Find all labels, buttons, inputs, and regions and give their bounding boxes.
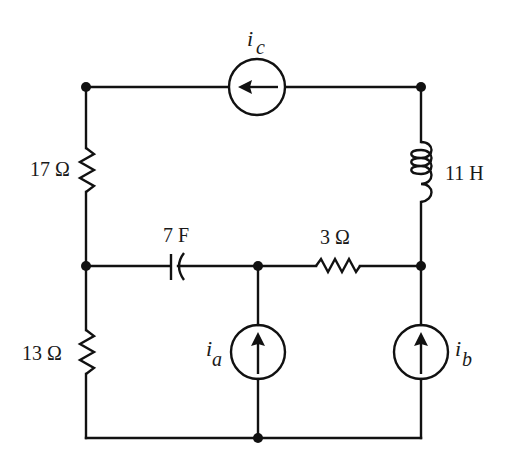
- resistor-13-zigzag: [80, 330, 94, 374]
- inductor-11-coil: [411, 142, 431, 202]
- left-lower-branch: 13 Ω: [22, 266, 94, 438]
- node-bottom-center: [253, 433, 263, 443]
- l11-label: 11 H: [445, 162, 484, 184]
- arrow-left-icon: [238, 80, 252, 94]
- circuit-diagram: i c 17 Ω 11 H 7 F 3 Ω 13 Ω: [0, 0, 511, 466]
- ic-label: i: [247, 26, 253, 51]
- center-branch: i a: [206, 266, 285, 438]
- r17-label: 17 Ω: [30, 158, 70, 180]
- node-mid-left: [81, 261, 91, 271]
- r13-label: 13 Ω: [22, 342, 62, 364]
- c7-label: 7 F: [163, 224, 189, 246]
- ia-subscript: a: [212, 348, 222, 370]
- ic-subscript: c: [256, 36, 265, 58]
- node-top-left: [81, 82, 91, 92]
- node-top-right: [416, 82, 426, 92]
- left-upper-branch: 17 Ω: [30, 87, 94, 266]
- arrow-up-icon: [251, 332, 265, 346]
- right-upper-branch: 11 H: [411, 87, 483, 266]
- node-mid-right: [416, 261, 426, 271]
- current-source-ic: [229, 59, 285, 115]
- node-mid-center: [253, 261, 263, 271]
- top-branch: i c: [86, 26, 421, 115]
- ib-subscript: b: [462, 348, 472, 370]
- arrow-up-icon: [414, 332, 428, 346]
- middle-branch: 7 F 3 Ω: [86, 224, 421, 280]
- r3-label: 3 Ω: [320, 226, 350, 248]
- resistor-17-zigzag: [80, 148, 94, 192]
- resistor-3-zigzag: [316, 259, 360, 272]
- ib-label: i: [455, 336, 461, 361]
- right-lower-branch: i b: [394, 266, 472, 438]
